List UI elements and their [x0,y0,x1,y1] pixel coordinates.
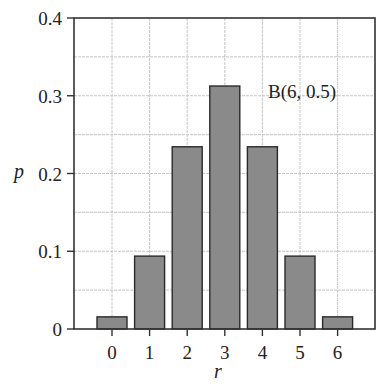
x-tick-label: 4 [258,342,268,363]
y-tick-label: 0.3 [38,86,62,107]
x-axis-title: r [214,360,222,382]
x-axis-ticks: 0123456 [107,329,342,363]
y-tick-label: 0.4 [38,8,62,29]
y-tick-label: 0 [53,319,63,340]
y-axis-ticks: 00.10.20.30.4 [38,8,74,340]
bar-r-2 [172,147,202,329]
x-tick-label: 5 [295,342,305,363]
x-tick-label: 2 [182,342,192,363]
bar-r-4 [247,147,277,329]
binomial-bar-chart: 00.10.20.30.4 0123456 p r B(6, 0.5) [0,0,378,392]
x-tick-label: 6 [333,342,343,363]
distribution-annotation: B(6, 0.5) [268,81,336,103]
x-tick-label: 0 [107,342,117,363]
x-tick-label: 1 [145,342,155,363]
bar-r-5 [285,256,315,329]
y-axis-title: p [12,160,24,183]
bar-r-1 [135,256,165,329]
y-tick-label: 0.2 [38,164,62,185]
bars [97,86,353,329]
bar-r-6 [323,317,353,329]
y-tick-label: 0.1 [38,241,62,262]
bar-r-3 [210,86,240,329]
bar-r-0 [97,317,127,329]
